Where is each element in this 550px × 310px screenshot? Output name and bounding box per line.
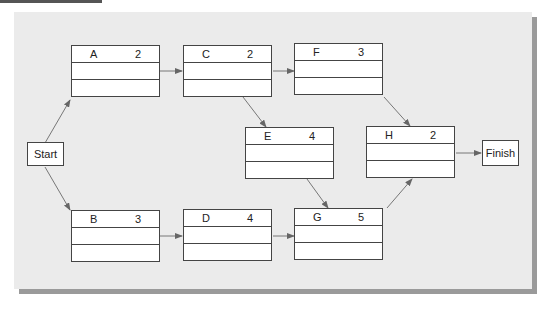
edge-c-e — [243, 97, 266, 127]
finish-label: Finish — [486, 147, 515, 159]
edge-start-b — [45, 167, 70, 210]
activity-id: A — [90, 48, 97, 60]
activity-node-c: C2 — [183, 45, 272, 97]
activity-duration: 2 — [247, 48, 253, 60]
activity-id: B — [90, 213, 97, 225]
activity-duration: 4 — [309, 130, 315, 142]
start-label: Start — [34, 148, 57, 160]
activity-duration: 3 — [135, 213, 141, 225]
edge-e-g — [307, 179, 328, 208]
activity-id: E — [264, 130, 271, 142]
activity-node-a: A2 — [71, 45, 160, 97]
activity-duration: 4 — [247, 212, 253, 224]
activity-node-b: B3 — [71, 210, 160, 262]
activity-duration: 5 — [358, 211, 364, 223]
edge-g-h — [387, 179, 412, 208]
activity-id: C — [202, 48, 210, 60]
activity-node-d: D4 — [183, 209, 272, 261]
activity-node-e: E4 — [245, 127, 334, 179]
activity-id: D — [202, 212, 210, 224]
finish-node: Finish — [482, 140, 519, 166]
activity-duration: 2 — [430, 129, 436, 141]
activity-id: G — [313, 211, 322, 223]
edge-f-h — [384, 97, 410, 126]
activity-duration: 2 — [135, 48, 141, 60]
activity-duration: 3 — [358, 46, 364, 58]
activity-id: H — [385, 129, 393, 141]
edge-start-a — [45, 100, 70, 143]
activity-node-f: F3 — [294, 43, 383, 95]
activity-id: F — [313, 46, 320, 58]
start-node: Start — [27, 142, 64, 166]
activity-node-h: H2 — [366, 126, 455, 178]
activity-node-g: G5 — [294, 208, 383, 260]
